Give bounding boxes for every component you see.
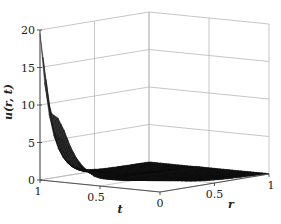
surface-layer: [40, 34, 269, 181]
z-gridline: [40, 12, 269, 30]
t-tick-label: 0.5: [87, 191, 105, 204]
z-tick-label: 10: [21, 99, 35, 112]
r-tick-label: 0.5: [206, 188, 224, 201]
z-gridline: [40, 87, 269, 105]
r-tick-label: 1: [268, 179, 275, 192]
z-tick-label: 5: [28, 137, 35, 150]
t-tick-label: 1: [35, 185, 42, 198]
z-tick-label: 15: [21, 62, 35, 75]
z-axis-label: u(r, t): [2, 84, 15, 120]
z-gridline: [40, 125, 269, 143]
t-axis-label: t: [117, 203, 122, 216]
r-tick-label: 0: [157, 197, 164, 210]
r-axis-label: r: [228, 198, 235, 211]
z-tick-label: 20: [21, 24, 35, 37]
surface-chart: 0 5 10 15 20 1 0.5 0 0.5 1 t r u(r, t): [0, 0, 281, 224]
z-gridline: [40, 50, 269, 68]
